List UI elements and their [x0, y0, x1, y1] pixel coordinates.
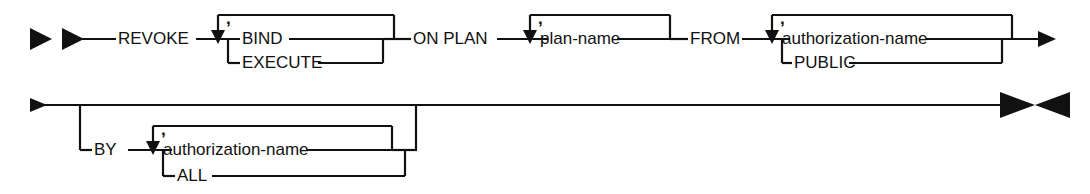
token-execute: EXECUTE [242, 53, 322, 72]
start-arrow-icon [30, 28, 52, 50]
token-all: ALL [177, 166, 207, 185]
syntax-diagram-canvas: REVOKE , BIND EXECUTE ON PLAN , plan-nam… [0, 0, 1090, 194]
loop-down-arrow-icon [211, 30, 225, 44]
token-public: PUBLIC [794, 53, 855, 72]
token-revoke: REVOKE [118, 29, 189, 48]
loop-down-arrow-icon [146, 141, 160, 155]
loop-down-arrow-icon [523, 30, 537, 44]
terminator-arrow-icon [1000, 92, 1035, 118]
revoke-railroad-diagram: REVOKE , BIND EXECUTE ON PLAN , plan-nam… [0, 0, 1090, 194]
token-plan-name: plan-name [540, 29, 620, 48]
start-arrow-icon [62, 28, 84, 50]
loop-separator-comma: , [780, 9, 785, 28]
loop-separator-comma: , [538, 9, 543, 28]
token-authorization-name-by: authorization-name [163, 140, 309, 159]
terminator-arrow-icon [1035, 92, 1070, 118]
continuation-arrow-icon [1038, 31, 1056, 47]
token-authorization-name-from: authorization-name [782, 29, 928, 48]
token-by: BY [94, 140, 117, 159]
token-from: FROM [690, 29, 740, 48]
loop-separator-comma: , [161, 120, 166, 139]
loop-separator-comma: , [226, 9, 231, 28]
token-bind: BIND [242, 29, 283, 48]
loop-down-arrow-icon [765, 30, 779, 44]
token-on-plan: ON PLAN [413, 29, 488, 48]
